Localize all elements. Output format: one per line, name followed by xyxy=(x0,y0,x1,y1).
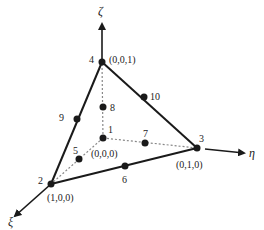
eta-axis-label: η xyxy=(249,147,255,159)
node-1-label: 1 xyxy=(108,125,113,135)
node-6-label: 6 xyxy=(122,175,127,185)
edge-1-4 xyxy=(102,62,103,138)
node-1-coord: (0,0,0) xyxy=(91,149,118,159)
node-2 xyxy=(48,181,55,188)
diagram-canvas xyxy=(0,0,264,230)
edge-4-3 xyxy=(102,62,197,148)
node-8-label: 8 xyxy=(110,103,115,113)
node-5 xyxy=(76,156,83,163)
eta-axis-arrow xyxy=(205,149,244,153)
node-7-label: 7 xyxy=(143,129,148,139)
node-4 xyxy=(99,59,106,66)
node-4-coord: (0,0,1) xyxy=(109,55,136,65)
node-9-label: 9 xyxy=(59,113,64,123)
zeta-axis-label: ζ xyxy=(98,5,103,17)
node-3-coord: (0,1,0) xyxy=(176,160,203,170)
node-3-label: 3 xyxy=(199,134,204,144)
node-2-label: 2 xyxy=(38,176,43,186)
node-10-label: 10 xyxy=(150,92,160,102)
node-4-label: 4 xyxy=(89,55,94,65)
node-9 xyxy=(74,116,81,123)
node-8 xyxy=(100,104,107,111)
node-2-coord: (1,0,0) xyxy=(47,193,74,203)
node-10 xyxy=(141,94,148,101)
edge-4-2 xyxy=(51,62,102,184)
node-1 xyxy=(100,135,107,142)
node-6 xyxy=(122,163,129,170)
node-5-label: 5 xyxy=(73,146,78,156)
edge-1-3 xyxy=(103,138,197,148)
xi-axis-arrow xyxy=(15,184,51,216)
node-7 xyxy=(142,140,149,147)
xi-axis-label: ξ xyxy=(8,216,13,228)
node-3 xyxy=(194,145,201,152)
tetrahedron-diagram: ζ η ξ 4 (0,0,1) 8 10 9 1 (0,0,0) 7 3 (0,… xyxy=(0,0,264,230)
